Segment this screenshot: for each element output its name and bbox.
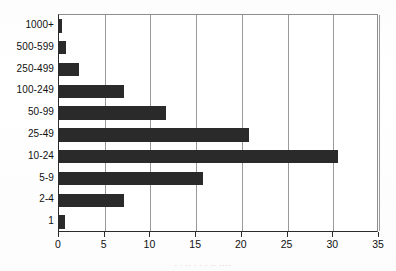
bar-row — [59, 19, 377, 33]
bar-row — [59, 106, 377, 120]
bar-100-249 — [59, 85, 124, 99]
plot-area — [58, 14, 378, 232]
x-tick-20 — [241, 232, 242, 237]
y-axis-label-25-49: 25-49 — [0, 128, 54, 139]
bar-500-599 — [59, 41, 66, 55]
gridline-35 — [379, 15, 380, 231]
bar-chart: 1000+500-599250-499100-24950-9925-4910-2… — [0, 0, 396, 271]
y-axis-label-5-9: 5-9 — [0, 172, 54, 183]
bar-row — [59, 194, 377, 208]
bar-row — [59, 41, 377, 55]
x-tick-35 — [378, 232, 379, 237]
bar-1000+ — [59, 19, 62, 33]
bar-1 — [59, 215, 65, 229]
bar-250-499 — [59, 63, 79, 77]
bar-row — [59, 85, 377, 99]
x-tick-label-25: 25 — [281, 238, 293, 251]
y-axis-label-2-4: 2-4 — [0, 193, 54, 204]
bar-row — [59, 150, 377, 164]
y-axis-label-100-249: 100-249 — [0, 84, 54, 95]
x-axis-tick-labels: 05101520253035 — [58, 238, 378, 252]
bar-25-49 — [59, 128, 249, 142]
bar-5-9 — [59, 172, 203, 186]
bar-row — [59, 63, 377, 77]
x-tick-5 — [104, 232, 105, 237]
x-tick-10 — [149, 232, 150, 237]
x-axis-ticks — [58, 232, 378, 237]
y-axis-label-1000+: 1000+ — [0, 19, 54, 30]
x-tick-label-30: 30 — [326, 238, 338, 251]
x-tick-label-10: 10 — [144, 238, 156, 251]
x-tick-25 — [287, 232, 288, 237]
x-tick-15 — [195, 232, 196, 237]
bar-row — [59, 128, 377, 142]
bar-10-24 — [59, 150, 338, 164]
y-axis-category-labels: 1000+500-599250-499100-24950-9925-4910-2… — [0, 14, 54, 232]
x-tick-30 — [332, 232, 333, 237]
bar-row — [59, 215, 377, 229]
bar-series — [59, 15, 377, 231]
y-axis-label-50-99: 50-99 — [0, 106, 54, 117]
bar-2-4 — [59, 194, 124, 208]
bar-50-99 — [59, 106, 166, 120]
x-tick-label-0: 0 — [55, 238, 61, 251]
x-tick-0 — [58, 232, 59, 237]
x-tick-label-15: 15 — [189, 238, 201, 251]
y-axis-label-250-499: 250-499 — [0, 63, 54, 74]
caption-remnant: · · ·· · · · ·· ···· — [95, 261, 310, 269]
x-tick-label-5: 5 — [101, 238, 107, 251]
y-axis-label-1: 1 — [0, 215, 54, 226]
bar-row — [59, 172, 377, 186]
y-axis-label-500-599: 500-599 — [0, 41, 54, 52]
y-axis-label-10-24: 10-24 — [0, 150, 54, 161]
x-tick-label-20: 20 — [235, 238, 247, 251]
x-tick-label-35: 35 — [372, 238, 384, 251]
